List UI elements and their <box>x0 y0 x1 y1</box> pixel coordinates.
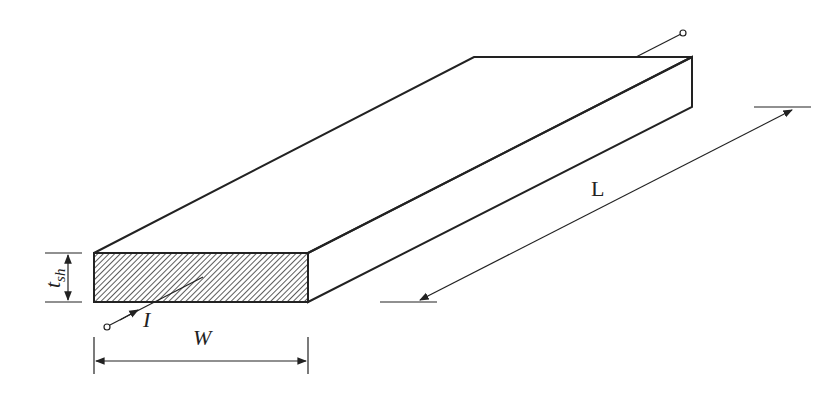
width-label: W <box>193 325 213 350</box>
side-face <box>308 57 692 302</box>
top-face <box>94 57 692 253</box>
diagram-canvas: tsh I W L <box>0 0 839 395</box>
thickness-label: tsh <box>40 269 68 288</box>
length-label: L <box>591 176 604 201</box>
current-label: I <box>142 307 152 332</box>
current-lead-back <box>636 30 686 57</box>
terminal-back <box>680 30 686 36</box>
length-dimension <box>380 107 811 302</box>
terminal-front <box>104 324 110 330</box>
